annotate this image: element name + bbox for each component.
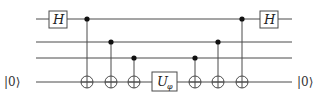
cnot-gate-6 — [236, 16, 248, 88]
hadamard-label-right: H — [263, 12, 276, 27]
cnot-gate-2 — [105, 39, 117, 88]
hadamard-gate-left: H — [49, 11, 67, 28]
control-dot — [239, 16, 244, 21]
hadamard-gate-right: H — [260, 11, 278, 28]
u-phi-gate: U φ — [152, 72, 177, 91]
control-dot — [215, 39, 220, 44]
control-dot — [84, 16, 89, 21]
control-dot — [108, 39, 113, 44]
quantum-circuit: |0⟩ |0⟩ H U φ — [0, 0, 325, 101]
hadamard-label-left: H — [52, 12, 65, 27]
cnot-gate-4 — [189, 55, 201, 88]
cnot-gate-1 — [81, 16, 93, 88]
cnot-gate-3 — [128, 55, 140, 88]
input-ket-label: |0⟩ — [4, 75, 20, 89]
control-dot — [192, 55, 197, 60]
control-dot — [131, 55, 136, 60]
u-gate-subscript: φ — [167, 82, 173, 91]
cnot-gate-5 — [212, 39, 224, 88]
output-ket-label: |0⟩ — [297, 75, 313, 89]
